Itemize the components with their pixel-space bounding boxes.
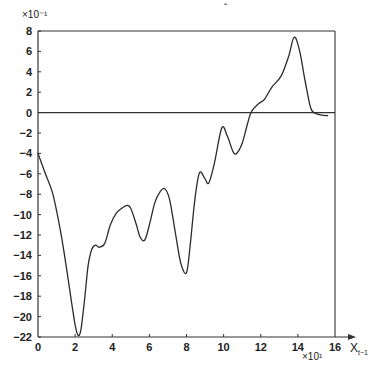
x-tick-label: 10: [218, 341, 230, 353]
y-tick-label: 6: [26, 45, 32, 57]
y-tick-label: −16: [13, 270, 32, 282]
y-tick-label: −14: [13, 249, 33, 261]
y-tick-label: −2: [19, 127, 32, 139]
x-axis-multiplier: ×10¹: [302, 351, 323, 362]
y-tick-label: −6: [19, 168, 32, 180]
x-tick-label: 12: [255, 341, 267, 353]
caret-mark: ˆ: [224, 3, 228, 14]
y-tick-label: 2: [26, 86, 32, 98]
plot-frame: [38, 31, 348, 337]
y-tick-label: −22: [13, 331, 32, 343]
x-tick-label: 16: [329, 341, 341, 353]
x-tick-label: 8: [183, 341, 189, 353]
x-tick-label: 6: [146, 341, 152, 353]
y-tick-label: −12: [13, 229, 32, 241]
y-tick-label: −20: [13, 311, 32, 323]
y-axis-multiplier: ×10⁻¹: [22, 9, 48, 20]
y-tick-label: 8: [26, 25, 32, 37]
x-axis-arrow-icon: [348, 334, 356, 340]
y-tick-label: −4: [19, 147, 32, 159]
x-axis-label: Xt−1: [350, 341, 368, 356]
y-tick-label: −8: [19, 188, 32, 200]
y-axis-ticks: 86420−2−4−6−8−10−12−14−16−18−20−22: [13, 25, 41, 343]
data-series-line: [38, 37, 328, 336]
x-tick-label: 0: [35, 341, 41, 353]
line-chart: 86420−2−4−6−8−10−12−14−16−18−20−22 02468…: [0, 0, 384, 377]
y-tick-label: −10: [13, 209, 32, 221]
x-tick-label: 2: [72, 341, 78, 353]
y-tick-label: 4: [26, 66, 33, 78]
y-tick-label: −18: [13, 290, 32, 302]
y-tick-label: 0: [26, 107, 32, 119]
x-tick-label: 4: [109, 341, 116, 353]
